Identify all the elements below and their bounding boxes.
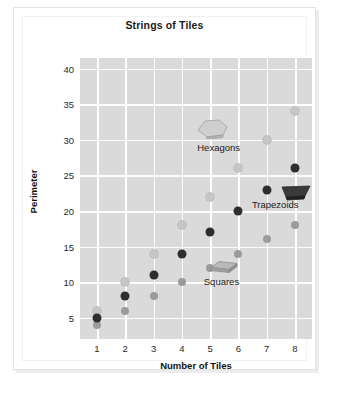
y-tick-label: 40 <box>34 63 74 74</box>
data-point-hexagons <box>150 250 158 258</box>
plot-area: 12345678HexagonsTrapezoidsSquares <box>80 58 312 339</box>
data-point-hexagons <box>234 164 242 172</box>
data-point-trapezoids <box>92 313 101 322</box>
x-tick-label: 3 <box>139 343 169 354</box>
y-tick-label: 10 <box>34 277 74 288</box>
data-point-hexagons <box>121 278 129 286</box>
data-point-squares <box>291 221 299 229</box>
series-label-hexagons: Hexagons <box>197 141 240 152</box>
data-point-trapezoids <box>291 164 300 173</box>
y-tick-label: 15 <box>34 241 74 252</box>
gridline-horizontal <box>80 318 312 320</box>
y-tick-label: 20 <box>34 205 74 216</box>
data-point-trapezoids <box>206 228 215 237</box>
gridline-horizontal <box>80 247 312 249</box>
y-axis-label: Perimeter <box>28 132 39 252</box>
y-tick-label: 30 <box>34 134 74 145</box>
data-point-trapezoids <box>262 185 271 194</box>
data-point-hexagons <box>206 193 214 201</box>
figure-card: Strings of Tiles 12345678HexagonsTrapezo… <box>13 7 316 370</box>
data-point-squares <box>263 235 271 243</box>
data-point-squares <box>234 250 242 258</box>
x-tick-label: 5 <box>195 343 225 354</box>
gridline-vertical <box>182 58 184 339</box>
series-label-trapezoids: Trapezoids <box>252 198 299 209</box>
hexagon-tile-glyph <box>196 119 228 139</box>
data-point-trapezoids <box>149 270 158 279</box>
gridline-vertical <box>238 58 240 339</box>
data-point-hexagons <box>263 136 271 144</box>
gridline-horizontal <box>80 211 312 213</box>
gridline-horizontal <box>80 175 312 177</box>
series-label-squares: Squares <box>204 275 239 286</box>
data-point-hexagons <box>178 221 186 229</box>
x-tick-label: 2 <box>110 343 140 354</box>
y-tick-label: 5 <box>34 312 74 323</box>
x-axis-label: Number of Tiles <box>80 360 312 371</box>
data-point-trapezoids <box>121 292 130 301</box>
x-tick-label: 7 <box>252 343 282 354</box>
y-tick-label: 25 <box>34 170 74 181</box>
y-tick-label: 35 <box>34 99 74 110</box>
data-point-trapezoids <box>177 249 186 258</box>
gridline-horizontal <box>80 282 312 284</box>
data-point-squares <box>121 307 129 315</box>
gridline-vertical <box>97 58 99 339</box>
data-point-hexagons <box>291 107 299 115</box>
data-point-trapezoids <box>234 206 243 215</box>
data-point-squares <box>150 292 158 300</box>
gridline-horizontal <box>80 104 312 106</box>
chart-title: Strings of Tiles <box>14 19 315 31</box>
gridline-horizontal <box>80 69 312 71</box>
hexagon-tile-glyph <box>196 119 228 143</box>
x-tick-label: 4 <box>167 343 197 354</box>
square-tile-glyph <box>210 260 238 275</box>
data-point-squares <box>178 278 186 286</box>
x-tick-label: 1 <box>82 343 112 354</box>
x-tick-label: 8 <box>280 343 310 354</box>
x-tick-label: 6 <box>223 343 253 354</box>
figure-caption <box>16 378 306 388</box>
